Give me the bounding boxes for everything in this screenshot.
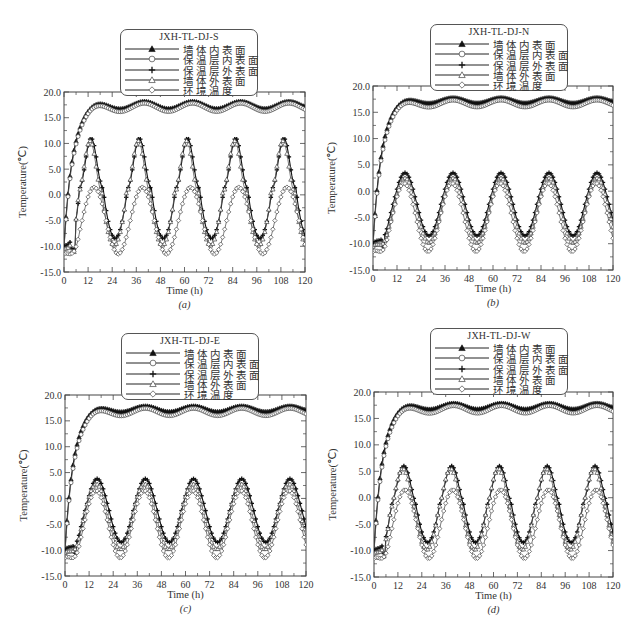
y-tick-label: 10.0 [354,439,372,450]
x-axis-label: Time (h) [475,590,512,602]
y-axis-label: Temperature(℃) [327,448,339,520]
x-tick-label: 84 [536,580,546,591]
legend-title: JXH-TL-DJ-W [431,330,567,341]
x-tick-label: 108 [582,580,597,591]
x-tick-label: 120 [606,580,621,591]
legend: JXH-TL-DJ-W墙体内表面保温层内表面保温层外表面墙体外表面环境温度 [430,328,568,395]
legend-label: 环境温度 [493,382,545,397]
x-tick-label: 24 [417,580,427,591]
x-tick-label: 96 [560,580,570,591]
open-diamond-marker-icon [435,383,491,395]
x-tick-label: 0 [372,580,377,591]
y-tick-label: 0.0 [359,492,372,503]
y-tick-label: -10.0 [350,545,371,556]
x-tick-label: 48 [465,580,475,591]
y-tick-label: 20.0 [354,387,372,398]
y-tick-label: 5.0 [359,466,372,477]
y-tick-label: -5.0 [355,519,371,530]
y-tick-label: -15.0 [350,572,371,583]
y-tick-label: 15.0 [354,413,372,424]
panel-label: (d) [487,604,500,616]
x-tick-label: 36 [441,580,451,591]
x-tick-label: 72 [512,580,522,591]
legend-item: 环境温度 [431,383,567,395]
chart-svg-d: 01224364860728496108120-15.0-10.0-5.00.0… [0,0,640,633]
x-tick-label: 12 [393,580,403,591]
